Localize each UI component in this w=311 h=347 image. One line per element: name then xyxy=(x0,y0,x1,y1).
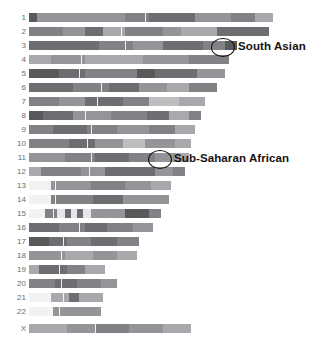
ancestry-segment xyxy=(117,125,149,134)
centromere-marker xyxy=(61,279,62,288)
ancestry-segment xyxy=(29,167,41,176)
ancestry-segment xyxy=(169,111,189,120)
ancestry-segment xyxy=(53,307,101,316)
chromosome-label: 6 xyxy=(8,84,26,92)
ancestry-segment xyxy=(85,55,143,64)
ancestry-segment xyxy=(29,69,59,78)
chromosome-label: 11 xyxy=(8,154,26,162)
centromere-marker xyxy=(121,27,122,36)
centromere-marker xyxy=(59,307,60,316)
ancestry-segment xyxy=(139,83,167,92)
chromosome-ancestry-bar xyxy=(29,307,101,316)
chromosome-ancestry-bar xyxy=(29,69,225,78)
ancestry-segment xyxy=(189,111,201,120)
chromosome-label: 8 xyxy=(8,112,26,120)
ancestry-segment xyxy=(85,265,105,274)
annotation-label: South Asian xyxy=(238,40,306,52)
ancestry-segment xyxy=(29,307,53,316)
ancestry-segment xyxy=(123,139,145,148)
ancestry-segment xyxy=(123,195,169,204)
ancestry-segment xyxy=(155,69,197,78)
ancestry-segment xyxy=(195,13,231,22)
chromosome-label: 10 xyxy=(8,140,26,148)
ancestry-segment xyxy=(51,293,69,302)
chromosome-label: 9 xyxy=(8,126,26,134)
centromere-marker xyxy=(55,195,56,204)
chromosome-ancestry-bar xyxy=(29,251,137,260)
ancestry-segment xyxy=(217,27,269,36)
ancestry-segment xyxy=(29,237,49,246)
ancestry-segment xyxy=(143,55,189,64)
annotation-circle-south-asian xyxy=(211,38,235,57)
ancestry-segment xyxy=(79,293,103,302)
chromosome-label: 15 xyxy=(8,210,26,218)
chromosome-ancestry-bar xyxy=(29,41,237,50)
centromere-marker xyxy=(79,223,80,232)
ancestry-segment xyxy=(59,223,85,232)
chromosome-ancestry-bar xyxy=(29,265,105,274)
ancestry-segment xyxy=(95,324,129,333)
ancestry-segment xyxy=(93,195,123,204)
ancestry-segment xyxy=(29,279,55,288)
chromosome-label: 3 xyxy=(8,42,26,50)
centromere-marker xyxy=(79,69,80,78)
chromosome-label: 18 xyxy=(8,252,26,260)
ancestry-segment xyxy=(137,69,155,78)
ancestry-segment xyxy=(145,139,175,148)
ancestry-segment xyxy=(231,13,255,22)
chromosome-label: 14 xyxy=(8,196,26,204)
chromosome-ancestry-bar xyxy=(29,324,191,333)
centromere-marker xyxy=(89,167,90,176)
chromosome-ancestry-bar xyxy=(29,293,103,302)
centromere-marker xyxy=(87,139,88,148)
ancestry-segment xyxy=(149,13,195,22)
chromosome-label: 16 xyxy=(8,224,26,232)
ancestry-segment xyxy=(93,251,117,260)
centromere-marker xyxy=(91,125,92,134)
ancestry-segment xyxy=(181,27,217,36)
ancestry-segment xyxy=(149,209,161,218)
chromosome-label: 19 xyxy=(8,266,26,274)
chromosome-ancestry-bar xyxy=(29,111,201,120)
ancestry-segment xyxy=(179,97,205,106)
chromosome-label: 5 xyxy=(8,70,26,78)
centromere-marker xyxy=(91,153,92,162)
ancestry-segment xyxy=(85,69,137,78)
centromere-marker xyxy=(59,265,60,274)
ancestry-segment xyxy=(67,265,85,274)
centromere-marker xyxy=(145,13,146,22)
ancestry-segment xyxy=(197,69,225,78)
centromere-marker xyxy=(63,293,64,302)
chromosome-label: 2 xyxy=(8,28,26,36)
chromosome-ancestry-bar xyxy=(29,97,205,106)
centromere-marker xyxy=(81,55,82,64)
ancestry-segment xyxy=(125,181,151,190)
ancestry-segment xyxy=(51,55,85,64)
ancestry-segment xyxy=(43,111,73,120)
ancestry-segment xyxy=(125,27,163,36)
ancestry-segment xyxy=(45,209,57,218)
ancestry-segment xyxy=(163,27,181,36)
ancestry-segment xyxy=(29,209,45,218)
ancestry-segment xyxy=(117,237,139,246)
centromere-marker xyxy=(97,97,98,106)
ancestry-segment xyxy=(175,125,195,134)
ancestry-segment xyxy=(29,293,51,302)
chromosome-label: 1 xyxy=(8,14,26,22)
ancestry-segment xyxy=(29,27,63,36)
chromosome-label: 13 xyxy=(8,182,26,190)
ancestry-segment xyxy=(149,97,179,106)
ancestry-segment xyxy=(37,13,125,22)
ancestry-segment xyxy=(29,125,53,134)
ancestry-segment xyxy=(29,41,99,50)
ancestry-segment xyxy=(99,41,133,50)
chromosome-ancestry-bar xyxy=(29,237,139,246)
ancestry-segment xyxy=(57,209,65,218)
ancestry-segment xyxy=(95,153,129,162)
ancestry-segment xyxy=(51,181,91,190)
ancestry-segment xyxy=(111,111,147,120)
ancestry-segment xyxy=(151,181,171,190)
ancestry-segment xyxy=(53,125,87,134)
chromosome-ancestry-bar xyxy=(29,181,171,190)
annotation-label: Sub-Saharan African xyxy=(174,152,289,164)
